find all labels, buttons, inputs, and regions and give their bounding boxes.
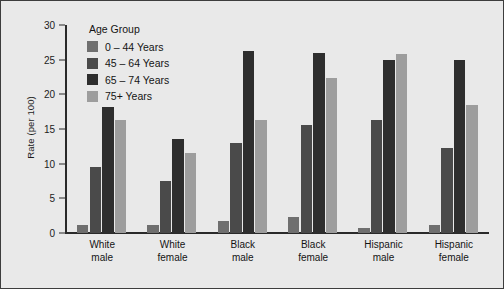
x-axis-label-line: male xyxy=(67,252,137,265)
legend-item: 75+ Years xyxy=(87,89,217,104)
legend-item-label: 75+ Years xyxy=(105,90,152,102)
y-axis-tick-label: 25 xyxy=(21,54,55,65)
bar xyxy=(160,181,171,233)
legend-item-label: 45 – 64 Years xyxy=(105,57,169,69)
x-axis-label-line: White xyxy=(67,239,137,252)
bar xyxy=(77,225,88,233)
legend-item: 45 – 64 Years xyxy=(87,56,217,71)
x-axis-category-label: Blackmale xyxy=(208,239,278,264)
bar xyxy=(358,228,369,233)
bar xyxy=(466,105,477,233)
bar xyxy=(185,153,196,233)
x-axis-label-line: male xyxy=(348,252,418,265)
bar xyxy=(243,51,254,233)
bar xyxy=(147,225,158,233)
x-axis-category-label: Hispanicmale xyxy=(348,239,418,264)
legend-item: 0 – 44 Years xyxy=(87,39,217,54)
bar xyxy=(102,107,113,233)
y-axis-tick-label: 20 xyxy=(21,89,55,100)
x-axis-label-line: Hispanic xyxy=(419,239,489,252)
y-axis-tick-label: 0 xyxy=(21,228,55,239)
y-axis-tick-label: 30 xyxy=(21,20,55,31)
y-axis-tick-label: 5 xyxy=(21,193,55,204)
bar xyxy=(301,125,312,233)
bar xyxy=(383,60,394,233)
bar xyxy=(90,167,101,233)
x-axis-label-line: Black xyxy=(208,239,278,252)
bar-group xyxy=(419,25,489,233)
legend-item-label: 65 – 74 Years xyxy=(105,74,169,86)
legend-entries: 0 – 44 Years45 – 64 Years65 – 74 Years75… xyxy=(87,39,217,104)
legend-color-swatch xyxy=(87,58,98,69)
bar xyxy=(172,139,183,233)
bar xyxy=(313,53,324,233)
x-axis-label-line: female xyxy=(419,252,489,265)
legend-color-swatch xyxy=(87,41,98,52)
x-axis-category-label: Hispanicfemale xyxy=(419,239,489,264)
legend-item: 65 – 74 Years xyxy=(87,72,217,87)
y-axis-tick-label: 10 xyxy=(21,158,55,169)
bar xyxy=(441,148,452,233)
bar xyxy=(255,120,266,233)
bar xyxy=(115,120,126,233)
x-axis-label-line: Hispanic xyxy=(348,239,418,252)
legend-color-swatch xyxy=(87,74,98,85)
x-axis-label-line: female xyxy=(137,252,207,265)
chart-figure: Rate (per 100) 051015202530 WhitemaleWhi… xyxy=(0,0,504,289)
bar xyxy=(288,217,299,233)
bar xyxy=(371,120,382,233)
x-axis-label-line: White xyxy=(137,239,207,252)
bar xyxy=(396,54,407,233)
bar xyxy=(218,221,229,233)
x-axis-category-label: Whitemale xyxy=(67,239,137,264)
bar xyxy=(429,225,440,233)
bar xyxy=(454,60,465,233)
x-axis-label-line: Black xyxy=(278,239,348,252)
legend: Age Group 0 – 44 Years45 – 64 Years65 – … xyxy=(87,23,217,105)
x-axis-category-label: Blackfemale xyxy=(278,239,348,264)
bar-group xyxy=(208,25,278,233)
legend-item-label: 0 – 44 Years xyxy=(105,41,163,53)
bar-group xyxy=(278,25,348,233)
legend-title: Age Group xyxy=(89,23,217,35)
legend-color-swatch xyxy=(87,91,98,102)
y-axis-tick-label: 15 xyxy=(21,124,55,135)
x-axis-category-label: Whitefemale xyxy=(137,239,207,264)
bar xyxy=(326,78,337,233)
bar-group xyxy=(348,25,418,233)
bar xyxy=(230,143,241,233)
x-axis-label-line: male xyxy=(208,252,278,265)
x-axis-label-line: female xyxy=(278,252,348,265)
